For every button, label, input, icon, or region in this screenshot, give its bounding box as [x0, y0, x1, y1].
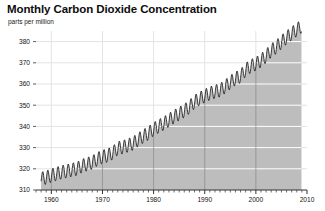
- x-tick-label: 2010: [300, 196, 315, 203]
- plot-area: 3103203303403503603703801960197019801990…: [0, 0, 325, 211]
- x-tick-label: 1990: [197, 196, 212, 203]
- y-tick-label: 310: [19, 186, 30, 193]
- y-tick-label: 320: [19, 165, 30, 172]
- co2-chart: Monthly Carbon Dioxide Concentration par…: [0, 0, 325, 211]
- x-tick-label: 2000: [249, 196, 264, 203]
- y-tick-label: 370: [19, 59, 30, 66]
- area-fill: [41, 22, 301, 190]
- y-tick-label: 340: [19, 123, 30, 130]
- x-tick-label: 1960: [44, 196, 59, 203]
- y-tick-label: 330: [19, 144, 30, 151]
- y-tick-label: 380: [19, 38, 30, 45]
- y-tick-label: 360: [19, 80, 30, 87]
- x-tick-label: 1980: [146, 196, 161, 203]
- x-tick-label: 1970: [95, 196, 110, 203]
- y-tick-label: 350: [19, 102, 30, 109]
